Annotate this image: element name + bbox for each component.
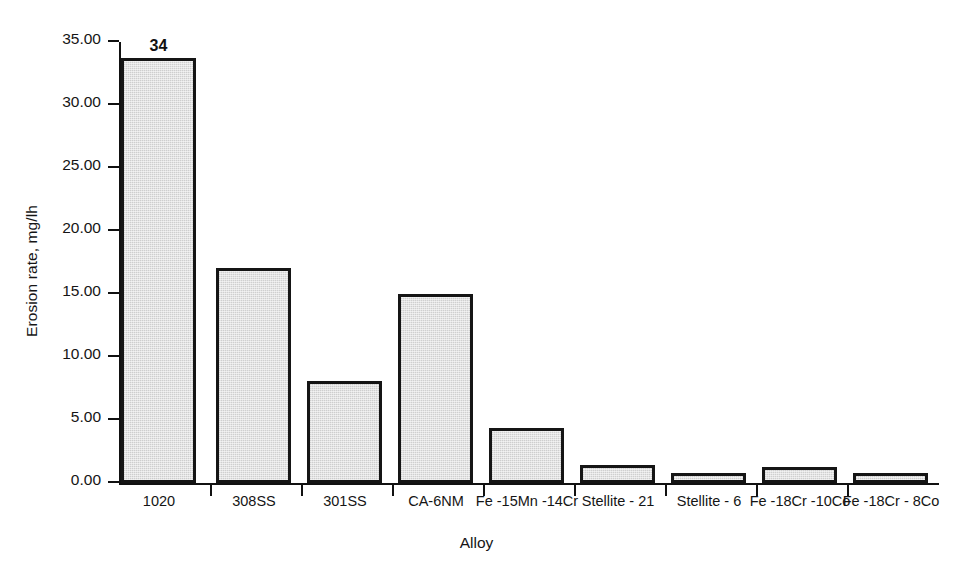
bar-Stellite-6[interactable] bbox=[671, 473, 746, 483]
x-minor-tick-2 bbox=[301, 483, 303, 496]
plot-area: 0.00 5.00 10.00 15.00 20.00 25.00 30.00 … bbox=[119, 42, 939, 483]
bar-Fe-15Mn-14Cr[interactable] bbox=[489, 428, 564, 483]
bar-CA-6NM[interactable] bbox=[398, 294, 473, 483]
y-tick-label-0: 0.00 bbox=[71, 471, 101, 489]
x-minor-tick-6 bbox=[665, 483, 667, 496]
bar-Fe-18Cr-10Co[interactable] bbox=[762, 467, 837, 483]
y-tick-label-7: 35.00 bbox=[62, 30, 101, 48]
x-category-label-308SS: 308SS bbox=[232, 493, 276, 509]
x-category-label-CA-6NM: CA-6NM bbox=[408, 493, 464, 509]
bar-value-label: 34 bbox=[150, 37, 168, 55]
y-tick-6: 30.00 bbox=[108, 103, 119, 105]
bar-1020[interactable]: 34 bbox=[121, 58, 196, 483]
x-category-label-Fe-18Cr-8Co: Fe -18Cr - 8Co bbox=[843, 493, 940, 509]
y-tick-label-4: 20.00 bbox=[62, 219, 101, 237]
y-tick-2: 10.00 bbox=[108, 355, 119, 357]
y-tick-label-2: 10.00 bbox=[62, 345, 101, 363]
y-tick-label-1: 5.00 bbox=[71, 408, 101, 426]
x-minor-tick-3 bbox=[392, 483, 394, 496]
x-category-label-1020: 1020 bbox=[143, 493, 175, 509]
x-minor-tick-1 bbox=[210, 483, 212, 496]
y-tick-0: 0.00 bbox=[108, 481, 119, 483]
y-tick-3: 15.00 bbox=[108, 292, 119, 294]
x-category-label-Fe-15Mn-14Cr: Fe -15Mn -14Cr bbox=[476, 493, 578, 509]
x-category-label-301SS: 301SS bbox=[323, 493, 367, 509]
bar-308SS[interactable] bbox=[216, 268, 291, 483]
y-tick-1: 5.00 bbox=[108, 418, 119, 420]
x-axis-title: Alloy bbox=[0, 534, 953, 552]
y-tick-4: 20.00 bbox=[108, 229, 119, 231]
x-category-label-Stellite-6: Stellite - 6 bbox=[677, 493, 741, 509]
x-category-label-Stellite-21: Stellite - 21 bbox=[582, 493, 655, 509]
bar-Stellite-21[interactable] bbox=[580, 465, 655, 483]
y-tick-5: 25.00 bbox=[108, 166, 119, 168]
bar-301SS[interactable] bbox=[307, 381, 382, 483]
y-tick-7: 35.00 bbox=[108, 40, 119, 42]
bar-Fe-18Cr-8Co[interactable] bbox=[853, 473, 928, 483]
y-tick-label-6: 30.00 bbox=[62, 93, 101, 111]
y-tick-label-5: 25.00 bbox=[62, 156, 101, 174]
x-axis-line bbox=[119, 483, 939, 485]
y-tick-label-3: 15.00 bbox=[62, 282, 101, 300]
x-category-label-Fe-18Cr-10Co: Fe -18Cr -10Co bbox=[750, 493, 851, 509]
erosion-rate-bar-chart: Erosion rate, mg/lh 0.00 5.00 10.00 15.0… bbox=[0, 0, 953, 586]
y-axis-title: Erosion rate, mg/lh bbox=[23, 61, 41, 481]
